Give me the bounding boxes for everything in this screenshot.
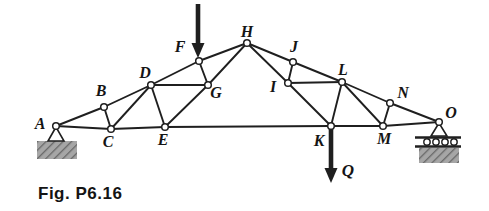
joint-label-K: K bbox=[313, 132, 326, 149]
figure-caption: Fig. P6.16 bbox=[38, 184, 122, 204]
joint-H bbox=[244, 40, 251, 47]
member-EG bbox=[165, 85, 208, 127]
member-BD bbox=[104, 85, 151, 107]
joint-A bbox=[53, 123, 60, 130]
member-DE bbox=[151, 85, 165, 127]
joint-M bbox=[380, 123, 387, 130]
joint-F bbox=[196, 58, 203, 65]
joint-label-F: F bbox=[174, 38, 186, 55]
member-IK bbox=[288, 83, 331, 126]
arrow-head-icon bbox=[192, 43, 205, 58]
load-arrow-K: Q bbox=[325, 128, 355, 183]
member-CE bbox=[111, 127, 165, 129]
ground-block-A bbox=[37, 141, 77, 159]
joint-label-C: C bbox=[103, 133, 114, 150]
member-HI bbox=[247, 43, 288, 83]
joint-N bbox=[387, 100, 394, 107]
joint-O bbox=[436, 119, 443, 126]
roller-wheel-icon bbox=[433, 139, 439, 145]
member-NO bbox=[390, 103, 439, 122]
member-CD bbox=[111, 85, 151, 129]
joint-J bbox=[290, 59, 297, 66]
member-IL bbox=[288, 82, 342, 83]
truss-diagram: QABCDEFGHIJKLMNO bbox=[0, 0, 489, 211]
ground-block-O bbox=[419, 148, 459, 163]
member-KL bbox=[331, 82, 342, 126]
member-HJ bbox=[247, 43, 293, 62]
joint-L bbox=[339, 79, 346, 86]
members-group bbox=[56, 43, 439, 129]
joint-label-B: B bbox=[95, 82, 107, 99]
joint-label-M: M bbox=[376, 130, 392, 147]
load-arrow-F bbox=[192, 4, 205, 58]
member-EK bbox=[165, 126, 331, 127]
joint-C bbox=[108, 126, 115, 133]
member-MO bbox=[383, 122, 439, 126]
member-LN bbox=[342, 82, 390, 103]
roller-wheel-icon bbox=[451, 139, 457, 145]
joint-K bbox=[328, 123, 335, 130]
joint-label-O: O bbox=[445, 104, 457, 121]
joints-group bbox=[53, 40, 443, 133]
member-LM bbox=[342, 82, 383, 126]
joint-label-G: G bbox=[210, 84, 222, 101]
joint-label-A: A bbox=[34, 115, 46, 132]
member-JL bbox=[293, 62, 342, 82]
joint-label-E: E bbox=[157, 131, 169, 148]
force-label-Q: Q bbox=[342, 161, 354, 180]
roller-wheel-icon bbox=[442, 139, 448, 145]
arrow-head-icon bbox=[325, 168, 338, 183]
joint-E bbox=[162, 124, 169, 131]
figure-canvas: QABCDEFGHIJKLMNO Fig. P6.16 bbox=[0, 0, 489, 211]
joint-B bbox=[101, 104, 108, 111]
roller-wheel-icon bbox=[424, 139, 430, 145]
joint-label-D: D bbox=[138, 64, 151, 81]
joint-I bbox=[285, 80, 292, 87]
joint-label-J: J bbox=[289, 38, 299, 55]
member-AC bbox=[56, 126, 111, 129]
joint-label-L: L bbox=[337, 61, 348, 78]
member-DF bbox=[151, 61, 199, 85]
joint-label-I: I bbox=[269, 78, 277, 95]
joint-D bbox=[148, 82, 155, 89]
joint-label-N: N bbox=[396, 84, 410, 101]
roller-support-O bbox=[415, 123, 461, 163]
joint-label-H: H bbox=[240, 23, 254, 40]
member-AB bbox=[56, 107, 104, 126]
